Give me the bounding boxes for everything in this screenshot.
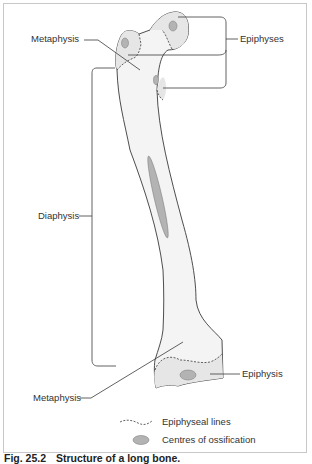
epiphyses-bracket-lower [163, 50, 226, 88]
ossification-centre-lesser [154, 76, 159, 85]
legend-dashed-line-icon [120, 420, 152, 424]
legend-label-ossification: Centres of ossification [162, 435, 255, 445]
figure-caption: Fig. 25.2Structure of a long bone. [4, 452, 180, 464]
legend-label-epiphyseal-lines: Epiphyseal lines [162, 417, 231, 427]
femur-outline [116, 12, 223, 388]
ossification-centre-trochanter [122, 38, 129, 48]
label-metaphysis-bottom: Metaphysis [33, 393, 81, 403]
label-metaphysis-top: Metaphysis [31, 34, 79, 44]
caption-number: Fig. 25.2 [4, 452, 46, 464]
label-epiphyses: Epiphyses [240, 34, 284, 44]
legend-ellipse-icon [133, 436, 149, 445]
label-diaphysis: Diaphysis [38, 211, 79, 221]
ossification-centre-head [169, 21, 177, 31]
ossification-centre-distal [180, 370, 196, 380]
label-epiphysis-bottom: Epiphysis [242, 369, 283, 379]
diaphysis-bracket [92, 68, 116, 366]
caption-title: Structure of a long bone. [56, 452, 180, 464]
